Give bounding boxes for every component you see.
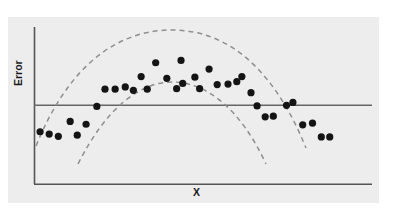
scatter-point bbox=[46, 130, 53, 137]
scatter-point bbox=[326, 133, 333, 140]
scatter-point bbox=[163, 75, 170, 82]
scatter-point bbox=[130, 87, 137, 94]
scatter-point bbox=[196, 85, 203, 92]
scatter-point bbox=[55, 133, 62, 140]
scatter-point bbox=[93, 103, 100, 110]
scatter-point bbox=[179, 80, 186, 87]
scatter-point bbox=[299, 121, 306, 128]
scatter-point bbox=[67, 118, 74, 125]
scatter-point bbox=[309, 120, 316, 127]
scatter-point bbox=[262, 113, 269, 120]
scatter-point bbox=[253, 102, 260, 109]
scatter-point bbox=[224, 80, 231, 87]
scatter-point bbox=[289, 99, 296, 106]
scatter-point bbox=[152, 59, 159, 66]
y-axis-label-text: Error bbox=[13, 60, 24, 86]
scatter-point bbox=[270, 113, 277, 120]
scatter-point bbox=[122, 83, 129, 90]
scatter-point bbox=[138, 73, 145, 80]
scatter-point bbox=[101, 86, 108, 93]
scatter-point bbox=[283, 102, 290, 109]
scatter-point bbox=[173, 85, 180, 92]
figure-container: Error X bbox=[0, 0, 403, 212]
scatter-point bbox=[177, 57, 184, 64]
axes-group bbox=[34, 27, 372, 184]
lower-envelope-curve bbox=[78, 82, 266, 164]
upper-envelope-curve bbox=[36, 30, 306, 148]
scatter-point bbox=[233, 78, 240, 85]
scatter-point bbox=[214, 81, 221, 88]
scatter-point bbox=[144, 86, 151, 93]
scatter-point bbox=[191, 74, 198, 81]
scatter-point bbox=[205, 65, 212, 72]
scatter-point bbox=[74, 132, 81, 139]
x-axis-label: X bbox=[193, 187, 200, 198]
y-axis-label: Error bbox=[13, 60, 24, 86]
scatter-point bbox=[318, 133, 325, 140]
scatter-point bbox=[36, 128, 43, 135]
scatter-plot-svg bbox=[0, 0, 403, 212]
scatter-points-group bbox=[36, 57, 333, 141]
envelope-curves-group bbox=[36, 30, 306, 164]
scatter-point bbox=[247, 89, 254, 96]
scatter-point bbox=[82, 121, 89, 128]
scatter-point bbox=[238, 73, 245, 80]
scatter-point bbox=[112, 86, 119, 93]
